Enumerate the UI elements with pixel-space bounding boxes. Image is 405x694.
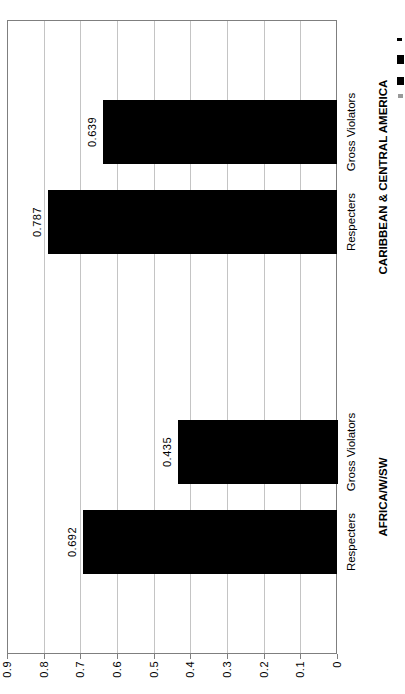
clipped-text-fragment	[397, 55, 404, 64]
value-axis-tick-label: 0.3	[220, 661, 234, 691]
axis-tick	[264, 654, 265, 659]
axis-tick	[300, 654, 301, 659]
value-axis-tick-label: 0.7	[73, 661, 87, 691]
category-label: Gross Violators	[344, 57, 358, 207]
value-axis-tick-label: 0.2	[257, 661, 271, 691]
bar-caribbean-central-america-gross-violators	[103, 100, 337, 164]
bar-caribbean-central-america-respecters	[48, 190, 337, 254]
bar-africa-w-sw-gross-violators	[178, 420, 338, 484]
value-axis-tick-label: 0.5	[147, 661, 161, 691]
value-axis-tick-label: 0	[330, 661, 344, 691]
axis-tick	[117, 654, 118, 659]
clipped-text-fragment	[397, 77, 404, 85]
clipped-text-fragment	[397, 38, 402, 41]
group-label-caribbean: CARIBBEAN & CENTRAL AMERICA	[376, 47, 391, 307]
axis-tick	[7, 654, 8, 659]
axis-tick	[154, 654, 155, 659]
axis-tick	[80, 654, 81, 659]
bar-value-label: 0.787	[30, 182, 44, 262]
value-axis-tick-label: 0.1	[293, 661, 307, 691]
bar-value-label: 0.639	[85, 92, 99, 172]
bar-africa-w-sw-respecters	[83, 510, 337, 574]
value-axis-tick-label: 0.4	[183, 661, 197, 691]
rotated-chart: AFRICA/W/SW CARIBBEAN & CENTRAL AMERICA …	[0, 0, 405, 694]
group-label-africa: AFRICA/W/SW	[376, 367, 391, 627]
value-axis-tick-label: 0.8	[37, 661, 51, 691]
gridline	[80, 21, 81, 653]
bar-value-label: 0.435	[160, 412, 174, 492]
axis-tick	[44, 654, 45, 659]
bar-value-label: 0.692	[65, 502, 79, 582]
chart-screenshot: AFRICA/W/SW CARIBBEAN & CENTRAL AMERICA …	[0, 0, 405, 694]
value-axis-tick-label: 0.6	[110, 661, 124, 691]
axis-tick	[190, 654, 191, 659]
value-axis-tick-label: 0.9	[0, 661, 14, 691]
axis-tick	[227, 654, 228, 659]
gridline	[44, 21, 45, 653]
category-label: Gross Violators	[344, 377, 358, 527]
axis-tick	[337, 654, 338, 659]
clipped-text-fragment	[398, 94, 403, 98]
